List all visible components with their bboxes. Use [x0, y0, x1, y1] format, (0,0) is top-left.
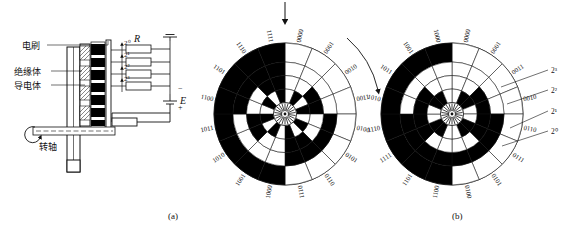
code-label: 1011	[200, 124, 214, 133]
gray-code-disc: 0000000100110010011001110101010011001101…	[367, 28, 558, 200]
battery-source	[112, 94, 177, 126]
bit-weight-label: 2³	[551, 66, 558, 75]
code-label: 1110	[367, 124, 382, 133]
code-label: 0001	[322, 40, 335, 55]
code-label: 1110	[235, 40, 248, 55]
label-plus-terminal: +	[178, 103, 183, 112]
label-shaft: 转轴	[39, 140, 57, 153]
code-label: 1111	[266, 29, 275, 43]
code-label: 1100	[200, 93, 215, 103]
code-label: 0111	[297, 185, 306, 199]
code-label: 1010	[367, 93, 382, 103]
resistor-bank	[126, 41, 170, 94]
code-label: 0000	[295, 28, 305, 43]
brush-bar	[106, 40, 111, 132]
caption-b: (b)	[452, 211, 463, 221]
bit-weight-labels: 2³2²2¹2⁰	[551, 66, 558, 136]
code-label: 1001	[402, 40, 415, 55]
code-label: 0100	[464, 185, 474, 200]
bit-weight-2-3: 2³	[124, 75, 130, 83]
code-label: 1100	[431, 184, 441, 199]
code-label: 0110	[523, 124, 538, 134]
label-conductor: 导电体	[14, 79, 41, 92]
code-label: 0110	[323, 172, 336, 187]
caption-a: (a)	[168, 211, 178, 221]
ground-symbol	[163, 35, 177, 42]
code-label: 1001	[233, 172, 246, 187]
bit-weight-2-1: 2¹	[124, 51, 130, 59]
code-label: 0010	[343, 62, 358, 76]
label-resistor: R	[134, 33, 140, 44]
bit-weight-label: 2²	[551, 86, 558, 95]
label-insulator: 绝缘体	[14, 65, 41, 78]
code-label: 1010	[211, 150, 226, 164]
bit-weight-2-2: 2²	[124, 63, 130, 71]
code-label: 0011	[510, 63, 525, 76]
support-column	[67, 47, 80, 172]
label-brush: 电刷	[22, 39, 40, 52]
code-label: 1101	[212, 63, 227, 76]
code-label: 0001	[489, 40, 502, 55]
code-label: 1000	[433, 29, 443, 44]
code-label: 1000	[264, 184, 274, 199]
code-label: 1101	[401, 172, 414, 187]
code-label: 0101	[344, 151, 359, 164]
code-label: 0101	[490, 172, 503, 187]
bit-weight-label: 2⁰	[551, 127, 558, 136]
figure-canvas: 0000000100100011010001010110011110001001…	[0, 0, 564, 234]
bit-weight-2-0: 2⁰	[124, 39, 131, 47]
encoder-figure: 0000000100100011010001010110011110001001…	[0, 0, 564, 234]
code-label: 1011	[379, 63, 394, 76]
disc-hub	[274, 103, 297, 126]
code-label: 1111	[378, 151, 392, 164]
binary-code-disc: 0000000100100011010001010110011110001001…	[200, 2, 378, 199]
conductor-blocks	[91, 44, 105, 126]
label-minus-terminal: −	[178, 84, 183, 93]
code-label: 0000	[462, 28, 472, 43]
disc-hub	[441, 103, 464, 126]
bit-weight-label: 2¹	[551, 107, 557, 116]
code-label: 0111	[511, 151, 525, 164]
